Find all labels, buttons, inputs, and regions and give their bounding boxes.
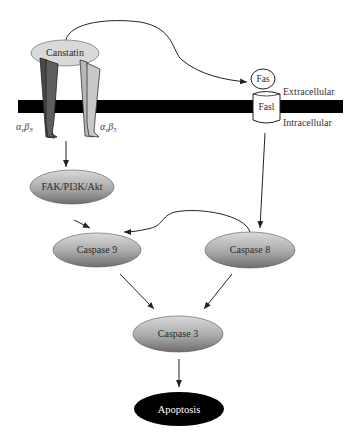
fasl-node: Fasl bbox=[253, 92, 280, 124]
fas-label: Fas bbox=[256, 74, 270, 84]
pathway-diagram: Canstatin αvβ3 αvβ5 Fas Fasl Extracellul… bbox=[0, 0, 358, 437]
caspase-9-node: Caspase 9 bbox=[53, 233, 141, 267]
integrin-avb5-icon bbox=[80, 60, 100, 137]
fak-pi3k-akt-node: FAK/PI3K/Akt bbox=[30, 170, 114, 204]
edge-casp8-casp3 bbox=[204, 274, 232, 309]
fasl-label: Fasl bbox=[259, 102, 275, 112]
fak-label: FAK/PI3K/Akt bbox=[42, 181, 103, 192]
caspase-8-node: Caspase 8 bbox=[205, 232, 295, 268]
integrin-avb5-label: αvβ5 bbox=[100, 121, 117, 134]
edge-casp9-casp3 bbox=[120, 274, 154, 309]
edge-fak-casp9 bbox=[74, 220, 90, 228]
fas-receptor-node: Fas bbox=[251, 69, 275, 89]
intracellular-label: Intracellular bbox=[283, 117, 333, 128]
extracellular-label: Extracellular bbox=[283, 86, 335, 97]
edge-casp8-casp9 bbox=[124, 211, 250, 232]
caspase-3-label: Caspase 3 bbox=[158, 328, 198, 339]
apoptosis-node: Apoptosis bbox=[134, 392, 224, 426]
integrin-avb3-label: αvβ3 bbox=[16, 121, 33, 134]
canstatin-label: Canstatin bbox=[46, 47, 84, 58]
caspase-3-node: Caspase 3 bbox=[133, 316, 223, 352]
caspase-9-label: Caspase 9 bbox=[77, 244, 117, 255]
edge-fasl-casp8 bbox=[260, 133, 265, 228]
caspase-8-label: Caspase 8 bbox=[230, 244, 270, 255]
cell-membrane bbox=[18, 100, 343, 113]
apoptosis-label: Apoptosis bbox=[158, 404, 201, 415]
integrin-avb3-icon bbox=[40, 58, 58, 138]
